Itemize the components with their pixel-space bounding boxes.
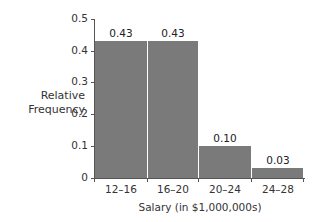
bar-value-label: 0.03	[252, 154, 304, 166]
y-tick-label: 0.5	[58, 12, 88, 24]
bar-24-28	[252, 168, 303, 178]
bar-value-label: 0.43	[147, 27, 199, 39]
x-tick	[251, 179, 252, 182]
y-tick-label: 0.2	[58, 107, 88, 119]
bar-12-16	[95, 41, 147, 178]
y-tick	[91, 82, 94, 83]
y-tick	[91, 146, 94, 147]
bar-value-label: 0.43	[95, 27, 147, 39]
y-tick	[91, 19, 94, 20]
y-tick-label: 0	[58, 171, 88, 183]
y-tick-label: 0.3	[58, 75, 88, 87]
y-tick-label: 0.1	[58, 139, 88, 151]
x-axis-label: Salary (in $1,000,000s)	[120, 201, 280, 213]
y-tick-label: 0.4	[58, 44, 88, 56]
histogram-chart: Relative Frequency 0 0.1 0.2 0.3 0.4 0.5…	[0, 0, 316, 222]
x-axis-line	[94, 178, 305, 179]
x-tick	[198, 179, 199, 182]
bar-20-24	[199, 146, 251, 178]
x-tick-label: 24–28	[252, 183, 304, 195]
x-tick-label: 12–16	[95, 183, 147, 195]
y-tick	[91, 114, 94, 115]
bar-16-20	[148, 41, 198, 178]
x-tick	[303, 179, 304, 182]
x-tick	[147, 179, 148, 182]
x-tick-label: 16–20	[147, 183, 199, 195]
x-tick	[94, 179, 95, 182]
bar-value-label: 0.10	[199, 132, 251, 144]
x-tick-label: 20–24	[199, 183, 251, 195]
y-tick	[91, 51, 94, 52]
y-axis-label-line-1: Relative	[28, 89, 85, 103]
